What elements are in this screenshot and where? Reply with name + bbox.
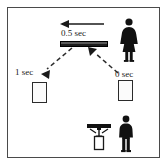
label-zero-sec: 0 sec — [115, 70, 133, 79]
card-right — [118, 80, 133, 101]
horizontal-bar — [60, 41, 108, 47]
card-left — [32, 82, 47, 103]
diagram-figure: 0.5 sec 1 sec 0 sec — [0, 0, 168, 168]
label-one-sec: 1 sec — [15, 68, 33, 77]
label-half-sec: 0.5 sec — [61, 29, 86, 38]
